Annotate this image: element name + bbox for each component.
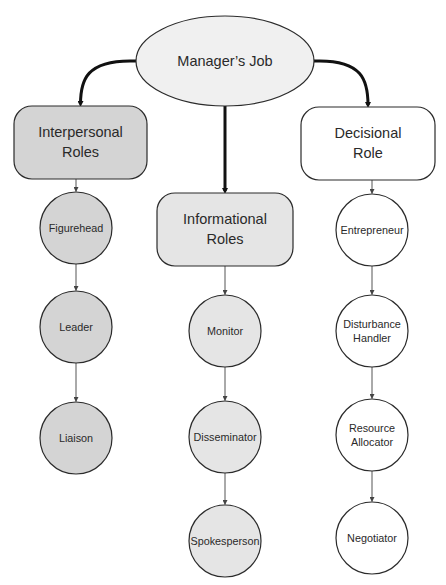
- informational-roles-box: [157, 193, 293, 266]
- node-liaison: [40, 402, 112, 474]
- node-entrepreneur: [336, 194, 408, 266]
- node-figurehead: [40, 192, 112, 264]
- node-disturbance-handler: [336, 295, 408, 367]
- decisional-roles-box: [301, 107, 435, 180]
- node-disseminator: [189, 401, 261, 473]
- thick-arrow-to-interpersonal: [81, 61, 137, 104]
- managers-job-diagram: [0, 0, 446, 585]
- node-leader: [40, 291, 112, 363]
- node-spokesperson: [189, 505, 261, 577]
- root-ellipse: [136, 16, 314, 106]
- node-negotiator: [336, 502, 408, 574]
- node-resource-allocator: [336, 399, 408, 471]
- interpersonal-roles-box: [14, 106, 147, 179]
- thick-arrow-to-decisional: [314, 61, 368, 105]
- node-monitor: [189, 295, 261, 367]
